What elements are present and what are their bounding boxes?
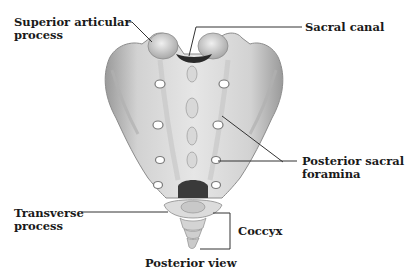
label-posterior-sacral-foramina: Posterior sacral foramina [302, 155, 404, 181]
leader-coccyx [200, 213, 230, 249]
coccyx-bone [164, 200, 222, 249]
label-coccyx: Coccyx [238, 225, 282, 238]
caption-posterior-view: Posterior view [145, 257, 237, 270]
label-line: Sacral canal [305, 21, 384, 34]
label-sacral-canal: Sacral canal [305, 21, 384, 34]
label-line: process [14, 29, 131, 42]
label-line: Coccyx [238, 225, 282, 238]
label-superior-articular-process: Superior articular process [14, 16, 131, 42]
superior-articular-process-right [198, 33, 228, 59]
label-transverse-process: Transverse process [14, 207, 84, 233]
superior-articular-process-left [148, 33, 178, 59]
label-line: foramina [302, 168, 404, 181]
label-line: process [14, 220, 84, 233]
